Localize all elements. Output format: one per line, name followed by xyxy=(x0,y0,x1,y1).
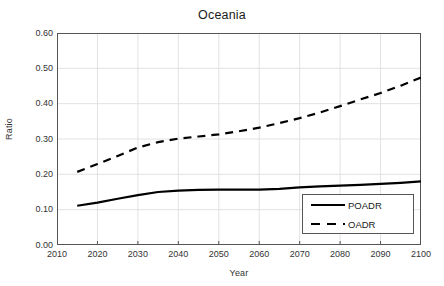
y-axis-tick-labels: 0.000.100.200.300.400.500.60 xyxy=(15,33,53,245)
chart-title: Oceania xyxy=(0,8,444,22)
x-tick-label: 2060 xyxy=(236,250,282,259)
x-tick-label: 2070 xyxy=(277,250,323,259)
legend-line-dashed-icon xyxy=(309,218,347,230)
x-axis-label: Year xyxy=(57,268,421,278)
x-axis-tick-labels: 2010202020302040205020602070208020902100 xyxy=(57,250,421,264)
y-tick-label: 0.30 xyxy=(19,135,53,144)
legend-label-oadr: OADR xyxy=(348,219,375,230)
x-tick-label: 2050 xyxy=(196,250,242,259)
y-axis-label: Ratio xyxy=(4,104,14,154)
legend-item-poadr: POADR xyxy=(303,195,415,215)
x-tick-label: 2090 xyxy=(358,250,404,259)
y-tick-label: 0.10 xyxy=(19,205,53,214)
chart-legend: POADR OADR xyxy=(302,194,414,234)
legend-label-poadr: POADR xyxy=(348,200,382,211)
y-tick-label: 0.40 xyxy=(19,99,53,108)
legend-item-oadr: OADR xyxy=(303,214,415,234)
x-tick-label: 2020 xyxy=(74,250,120,259)
chart-figure: Oceania Ratio 0.000.100.200.300.400.500.… xyxy=(0,0,444,286)
x-tick-label: 2100 xyxy=(398,250,444,259)
x-tick-label: 2040 xyxy=(155,250,201,259)
x-tick-label: 2010 xyxy=(34,250,80,259)
data-series-group xyxy=(77,78,421,206)
legend-line-solid-icon xyxy=(309,199,347,211)
y-tick-label: 0.20 xyxy=(19,170,53,179)
y-tick-label: 0.60 xyxy=(19,29,53,38)
series-line-oadr xyxy=(77,78,421,172)
x-tick-label: 2080 xyxy=(317,250,363,259)
x-tick-label: 2030 xyxy=(115,250,161,259)
y-tick-label: 0.50 xyxy=(19,64,53,73)
